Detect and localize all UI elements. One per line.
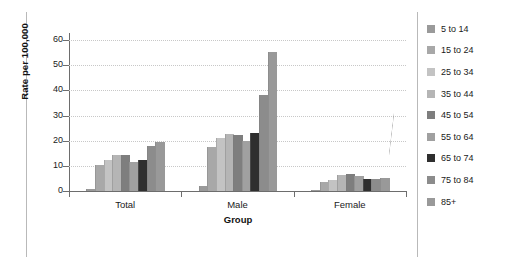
scan-artifact (389, 113, 394, 155)
x-axis-separator (406, 191, 407, 197)
bar (380, 178, 390, 191)
bar (155, 142, 165, 191)
y-tick: 0 (20, 186, 63, 195)
legend-item[interactable]: 35 to 44 (427, 83, 507, 105)
legend-item[interactable]: 65 to 74 (427, 148, 507, 170)
legend-label: 55 to 64 (441, 132, 474, 142)
gridline (69, 40, 406, 41)
x-axis-group-label-male: Male (181, 199, 293, 210)
x-axis-line (69, 191, 407, 192)
legend-swatch-icon (427, 198, 435, 206)
legend-item[interactable]: 85+ (427, 191, 507, 213)
y-tick-label: 50 (25, 60, 63, 69)
legend-item[interactable]: 55 to 64 (427, 126, 507, 148)
bar (268, 52, 278, 191)
y-tick-label: 20 (25, 136, 63, 145)
x-axis-separator (69, 191, 70, 197)
legend-item[interactable]: 75 to 84 (427, 169, 507, 191)
legend-swatch-icon (427, 133, 435, 141)
y-tick: 60 (20, 35, 63, 44)
x-axis-separator (294, 191, 295, 197)
y-tick-label: 10 (25, 161, 63, 170)
y-tick-label: 40 (25, 85, 63, 94)
legend-swatch-icon (427, 90, 435, 98)
legend-divider (417, 12, 418, 257)
y-tick: 50 (20, 60, 63, 69)
legend-swatch-icon (427, 176, 435, 184)
legend-item[interactable]: 45 to 54 (427, 104, 507, 126)
bar-chart-figure: Rate per 100,000 0102030405060 TotalMale… (0, 0, 509, 269)
legend-label: 15 to 24 (441, 45, 474, 55)
gridline (69, 90, 406, 91)
y-tick-label: 60 (25, 35, 63, 44)
legend-swatch-icon (427, 111, 435, 119)
legend-label: 35 to 44 (441, 89, 474, 99)
legend-label: 75 to 84 (441, 175, 474, 185)
legend-label: 5 to 14 (441, 24, 469, 34)
x-axis-title: Group (69, 214, 407, 225)
legend-item[interactable]: 25 to 34 (427, 61, 507, 83)
legend-swatch-icon (427, 46, 435, 54)
x-axis-group-label-total: Total (69, 199, 181, 210)
legend-swatch-icon (427, 25, 435, 33)
y-tick: 40 (20, 85, 63, 94)
x-axis-separator (181, 191, 182, 197)
plot-area (69, 35, 406, 191)
legend-label: 25 to 34 (441, 67, 474, 77)
y-tick: 20 (20, 136, 63, 145)
legend-label: 45 to 54 (441, 110, 474, 120)
x-axis-group-label-female: Female (294, 199, 406, 210)
legend-label: 85+ (441, 197, 456, 207)
y-tick-label: 0 (25, 186, 63, 195)
legend-swatch-icon (427, 154, 435, 162)
y-tick: 30 (20, 111, 63, 120)
y-tick-label: 30 (25, 111, 63, 120)
y-tick: 10 (20, 161, 63, 170)
legend-label: 65 to 74 (441, 153, 474, 163)
legend-item[interactable]: 15 to 24 (427, 40, 507, 62)
legend-swatch-icon (427, 68, 435, 76)
gridline (69, 65, 406, 66)
gridline (69, 116, 406, 117)
legend: 5 to 1415 to 2425 to 3435 to 4445 to 545… (427, 18, 507, 212)
legend-item[interactable]: 5 to 14 (427, 18, 507, 40)
